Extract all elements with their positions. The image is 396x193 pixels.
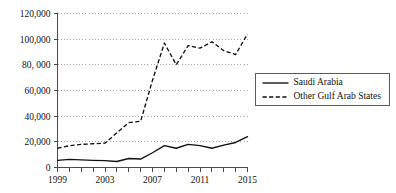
series-line-1: [58, 137, 248, 162]
x-axis-tick-labels: 19992003200720112015: [48, 175, 257, 185]
legend-label: Other Gulf Arab States: [294, 91, 382, 101]
x-axis-ticks: [58, 168, 248, 172]
y-tick-label: 60,000: [24, 86, 50, 96]
legend-label: Saudi Arabia: [294, 77, 344, 87]
y-tick-label: 40,000: [24, 112, 50, 122]
x-tick-label: 2003: [96, 175, 115, 185]
y-axis-tick-labels: 020,00040,00060,00080, 000100,000120,000: [20, 9, 51, 173]
y-tick-label: 80, 000: [22, 60, 51, 70]
chart-canvas: 020,00040,00060,00080, 000100,000120,000…: [0, 0, 396, 193]
y-tick-label: 120,000: [20, 9, 51, 19]
x-tick-label: 1999: [48, 175, 67, 185]
x-tick-label: 2007: [143, 175, 162, 185]
data-series: [58, 34, 248, 161]
y-tick-label: 20,000: [24, 137, 50, 147]
y-tick-label: 100,000: [20, 35, 51, 45]
chart-legend: Saudi ArabiaOther Gulf Arab States: [256, 74, 390, 106]
x-tick-label: 2011: [191, 175, 210, 185]
x-tick-label: 2015: [238, 175, 257, 185]
series-line-2: [58, 34, 248, 148]
gridlines: [58, 14, 248, 142]
line-chart: 020,00040,00060,00080, 000100,000120,000…: [0, 0, 396, 193]
y-tick-label: 0: [46, 163, 51, 173]
y-axis-ticks: [54, 14, 58, 168]
